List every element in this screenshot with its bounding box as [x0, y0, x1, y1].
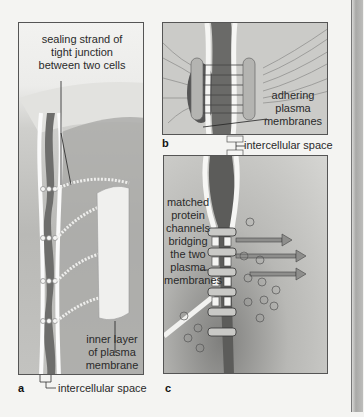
- panel-label-c: c: [165, 382, 171, 394]
- page-edge-strip: [351, 0, 363, 412]
- panel-c-gap-junction: matched protein channels bridging the tw…: [163, 155, 328, 374]
- label-adhering-membranes: adhering plasma membranes: [259, 89, 327, 128]
- panel-label-a: a: [18, 382, 24, 394]
- panel-label-b: b: [162, 137, 169, 149]
- panel-a-tight-junction: sealing strand of tight junction between…: [18, 22, 144, 375]
- panel-b-adhering-junction: adhering plasma membranes: [162, 22, 328, 135]
- label-intercellular-space-b: intercellular space: [244, 139, 333, 152]
- label-sealing-strand: sealing strand of tight junction between…: [19, 33, 144, 72]
- label-matched-protein-channels: matched protein channels bridging the tw…: [164, 196, 212, 287]
- label-inner-layer: inner layer of plasma membrane: [79, 333, 144, 372]
- label-intercellular-space-a: intercellular space: [58, 382, 147, 395]
- panel-a-illustration: [19, 23, 144, 375]
